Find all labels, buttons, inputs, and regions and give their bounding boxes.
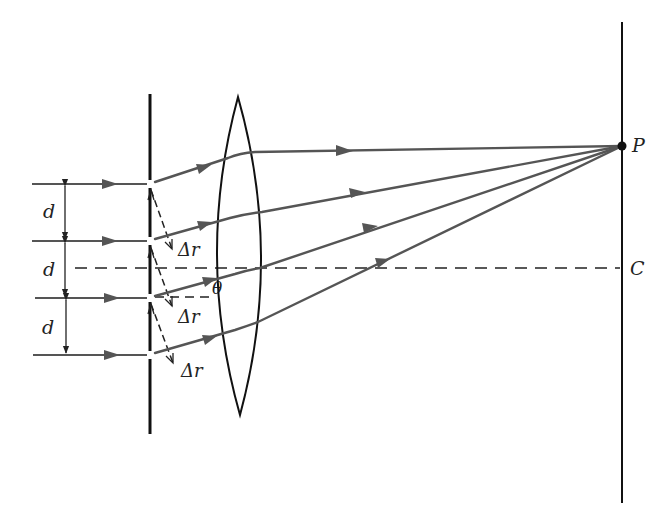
slit-spacing-markers	[65, 186, 66, 353]
label-c: C	[630, 257, 645, 279]
diffraction-diagram: d d d Δr Δr Δr θ P C	[0, 0, 661, 508]
label-d-2: d	[43, 258, 55, 280]
focus-point-p	[618, 142, 627, 151]
ray-arrowheads	[196, 145, 390, 345]
label-d-1: d	[43, 200, 55, 222]
label-delta-r-2: Δr	[177, 306, 201, 327]
label-delta-r-3: Δr	[180, 360, 204, 381]
path-difference-lines	[148, 190, 173, 363]
diffracted-rays	[155, 146, 622, 353]
converging-lens	[217, 97, 261, 415]
label-p: P	[631, 134, 646, 156]
label-delta-r-1: Δr	[177, 239, 201, 260]
label-d-3: d	[42, 316, 54, 338]
